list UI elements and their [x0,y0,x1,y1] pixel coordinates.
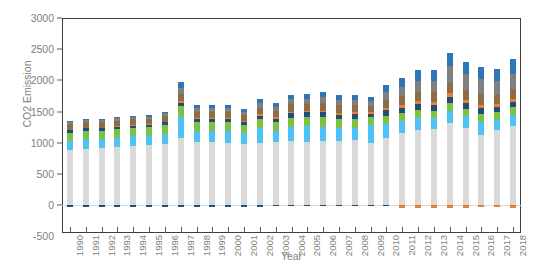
bar-segment-negative [447,205,453,208]
x-tick-mark [276,227,277,232]
bar-column[interactable] [379,18,395,233]
bar-column[interactable] [220,18,236,233]
bar-segment [447,83,453,94]
bar-column[interactable] [204,18,220,233]
bar-segment [114,138,120,147]
bar-stack-positive [194,105,200,205]
x-tick-mark [371,227,372,232]
bar-segment [383,100,389,108]
bar-stack-positive [463,62,469,205]
bar-segment [352,128,358,140]
bar-segment [288,141,294,205]
x-tick-mark [481,227,482,232]
bar-stack-negative [146,205,152,207]
bar-column[interactable] [125,18,141,233]
bar-column[interactable] [347,18,363,233]
bar-column[interactable] [157,18,173,233]
bar-segment [114,129,120,137]
bar-segment [304,104,310,111]
bar-column[interactable] [474,18,490,233]
bar-segment [146,127,152,135]
bar-stack-negative [510,205,516,208]
bar-segment [225,143,231,205]
bar-column[interactable] [505,18,521,233]
bar-segment-negative [304,205,310,206]
bar-segment [478,122,484,135]
bar-segment [257,128,263,142]
x-tick-mark [181,227,182,232]
bar-segment-negative [478,205,484,207]
bar-column[interactable] [315,18,331,233]
bar-stack-negative [494,205,500,207]
bar-stack-positive [304,94,310,205]
bar-segment-negative [368,205,374,206]
bar-segment [162,134,168,144]
bar-column[interactable] [458,18,474,233]
bar-segment [257,143,263,205]
bar-column[interactable] [442,18,458,233]
bar-column[interactable] [189,18,205,233]
bar-segment [463,90,469,100]
bar-column[interactable] [363,18,379,233]
bar-stack-negative [447,205,453,208]
bar-segment-negative [399,205,405,208]
bar-segment-negative [225,205,231,207]
bar-segment [241,125,247,133]
bar-column[interactable] [236,18,252,233]
x-tick-mark [418,227,419,232]
bar-segment [447,66,453,83]
bar-stack-positive [336,95,342,205]
bar-stack-positive [225,105,231,205]
bar-segment-negative [130,205,136,207]
bar-column[interactable] [252,18,268,233]
x-tick-mark [102,227,103,232]
bar-column[interactable] [489,18,505,233]
bar-segment [447,123,453,205]
bar-column[interactable] [299,18,315,233]
bar-stack-negative [225,205,231,207]
bar-column[interactable] [94,18,110,233]
bar-segment [415,70,421,80]
bar-column[interactable] [284,18,300,233]
bar-segment-negative [67,205,73,207]
bar-stack-negative [431,205,437,208]
bar-segment [67,150,73,205]
bar-column[interactable] [78,18,94,233]
bar-column[interactable] [109,18,125,233]
bar-column[interactable] [394,18,410,233]
bar-segment [415,130,421,205]
bar-segment-negative [336,205,342,206]
bar-stack-negative [336,205,342,206]
bar-column[interactable] [173,18,189,233]
bar-stack-positive [431,70,437,205]
bar-column[interactable] [62,18,78,233]
bar-segment [209,122,215,131]
y-tick-label: 1500 [0,106,54,118]
x-tick-mark [513,227,514,232]
bar-segment [510,59,516,75]
bar-column[interactable] [268,18,284,233]
bar-segment [463,74,469,90]
bar-segment-negative [510,205,516,208]
x-tick-mark [228,227,229,232]
bar-column[interactable] [141,18,157,233]
bar-segment-negative [463,205,469,208]
x-tick-mark [339,227,340,232]
bar-segment [209,142,215,205]
bar-segment [399,113,405,120]
bar-segment [178,94,184,101]
x-axis-title: Year [62,250,521,262]
bar-stack-positive [83,119,89,205]
bar-column[interactable] [410,18,426,233]
bar-stack-negative [257,205,263,207]
bar-stack-negative [463,205,469,208]
x-tick-mark [307,227,308,232]
bar-segment [178,138,184,205]
bar-segment [99,148,105,205]
bar-column[interactable] [426,18,442,233]
bar-column[interactable] [331,18,347,233]
bar-stack-positive [399,78,405,205]
bar-segment [510,89,516,99]
bar-segment [478,135,484,205]
x-tick-mark [497,227,498,232]
